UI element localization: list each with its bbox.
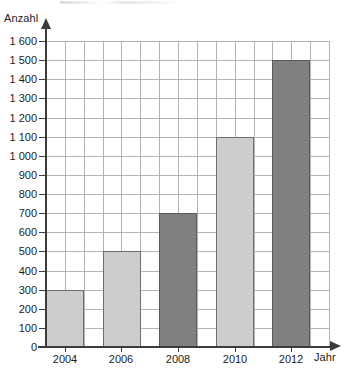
x-axis-tick xyxy=(235,347,236,352)
x-axis-label-2008: 2008 xyxy=(166,353,190,365)
y-axis-tick xyxy=(39,232,47,233)
grid-line-vertical xyxy=(310,41,311,347)
x-axis-tick xyxy=(121,347,122,352)
y-axis-arrow-icon xyxy=(41,18,51,29)
x-axis-label-2006: 2006 xyxy=(109,353,133,365)
y-axis-title: Anzahl xyxy=(4,12,38,24)
y-axis-tick xyxy=(39,98,47,99)
y-axis-tick xyxy=(39,271,47,272)
x-axis-tick xyxy=(291,347,292,352)
y-axis-tick xyxy=(39,309,47,310)
y-axis-label: 1 500 xyxy=(9,55,37,66)
x-axis-label-2012: 2012 xyxy=(279,353,303,365)
y-axis-tick xyxy=(39,137,47,138)
bar-2008 xyxy=(159,213,197,347)
y-axis-tick xyxy=(39,79,47,80)
bar-2012 xyxy=(272,60,310,347)
y-axis-tick xyxy=(39,290,47,291)
x-axis-arrow-icon xyxy=(330,341,341,351)
y-axis-tick xyxy=(39,60,47,61)
y-axis-tick xyxy=(39,194,47,195)
bar-2010 xyxy=(216,137,254,347)
grid-line-vertical xyxy=(254,41,255,347)
x-axis-tick xyxy=(178,347,179,352)
y-axis-tick xyxy=(39,213,47,214)
y-axis-label: 1 200 xyxy=(9,113,37,124)
x-axis-tick xyxy=(65,347,66,352)
grid-line-horizontal xyxy=(46,41,329,42)
y-axis-label: 100 xyxy=(19,323,37,334)
grid-line-vertical xyxy=(197,41,198,347)
y-axis-tick xyxy=(39,347,47,348)
scan-artifact xyxy=(60,1,180,4)
grid-line-vertical xyxy=(84,41,85,347)
y-axis-label: 700 xyxy=(19,208,37,219)
x-axis-line xyxy=(38,346,333,348)
y-axis-label: 1 100 xyxy=(9,132,37,143)
y-axis-tick xyxy=(39,328,47,329)
y-axis-label: 400 xyxy=(19,266,37,277)
y-axis-tick xyxy=(39,118,47,119)
y-axis-label: 300 xyxy=(19,285,37,296)
bar-2006 xyxy=(103,251,141,347)
x-axis-title: Jahr xyxy=(314,351,336,363)
y-axis-tick xyxy=(39,156,47,157)
y-axis-label: 1 000 xyxy=(9,151,37,162)
x-axis-label-2010: 2010 xyxy=(223,353,247,365)
y-axis-label: 1 600 xyxy=(9,36,37,47)
y-axis-line xyxy=(45,26,47,348)
x-axis-label-2004: 2004 xyxy=(53,353,77,365)
y-axis-label: 0 xyxy=(31,342,37,353)
y-axis-tick xyxy=(39,251,47,252)
y-axis-label: 1 300 xyxy=(9,93,37,104)
y-axis-label: 1 400 xyxy=(9,74,37,85)
grid-line-vertical xyxy=(329,41,330,347)
y-axis-label: 900 xyxy=(19,170,37,181)
y-axis-label: 800 xyxy=(19,189,37,200)
y-axis-tick xyxy=(39,175,47,176)
bar-2004 xyxy=(46,290,84,347)
y-axis-label: 500 xyxy=(19,246,37,257)
y-axis-label: 600 xyxy=(19,227,37,238)
y-axis-label: 200 xyxy=(19,304,37,315)
plot-area xyxy=(46,41,329,347)
bar-chart-figure: Anzahl Jahr 1 6001 5001 4001 3001 2001 1… xyxy=(0,0,349,375)
y-axis-tick xyxy=(39,41,47,42)
